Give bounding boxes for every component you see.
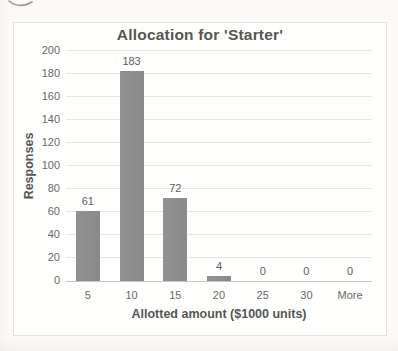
x-tick-label: 20 <box>197 289 241 302</box>
y-tick-label: 60 <box>14 205 60 218</box>
gridline <box>66 165 372 166</box>
gridline <box>66 234 372 235</box>
y-tick-label: 0 <box>14 274 60 287</box>
y-tick-label: 120 <box>14 136 60 149</box>
bar-value-label: 72 <box>153 182 197 194</box>
gridline <box>66 142 372 143</box>
bar <box>120 71 144 281</box>
plot-area: 61183724000 <box>66 51 372 282</box>
x-tick-label: More <box>328 289 372 302</box>
gridline <box>66 257 372 258</box>
bar-value-label: 4 <box>197 260 241 272</box>
x-tick-label: 30 <box>285 289 329 302</box>
bar <box>163 198 187 281</box>
bar <box>76 211 100 281</box>
gridline <box>66 50 372 51</box>
y-tick-label: 80 <box>14 182 60 195</box>
bar-value-label: 61 <box>66 195 110 207</box>
gridline <box>66 211 372 212</box>
gridline <box>66 119 372 120</box>
y-tick-label: 160 <box>14 90 60 103</box>
x-tick-label: 10 <box>110 289 154 302</box>
x-tick-label: 15 <box>153 289 197 302</box>
gridline <box>66 96 372 97</box>
x-tick-label: 25 <box>241 289 285 302</box>
x-tick-label: 5 <box>66 289 110 302</box>
chart-title: Allocation for 'Starter' <box>14 26 386 44</box>
bar <box>207 276 231 281</box>
gridline <box>66 188 372 189</box>
y-tick-label: 180 <box>14 67 60 80</box>
x-axis-title: Allotted amount ($1000 units) <box>66 307 372 321</box>
scanned-page: Allocation for 'Starter' Responses 61183… <box>0 0 398 351</box>
y-tick-label: 140 <box>14 113 60 126</box>
bar-value-label: 0 <box>285 265 329 277</box>
stray-ink-mark <box>8 0 38 8</box>
y-tick-label: 200 <box>14 44 60 57</box>
bar-value-label: 183 <box>110 55 154 67</box>
bar-chart: Allocation for 'Starter' Responses 61183… <box>13 22 387 336</box>
y-tick-label: 40 <box>14 228 60 241</box>
gridline <box>66 73 372 74</box>
y-tick-label: 20 <box>14 251 60 264</box>
y-tick-label: 100 <box>14 159 60 172</box>
bar-value-label: 0 <box>241 265 285 277</box>
bar-value-label: 0 <box>328 265 372 277</box>
